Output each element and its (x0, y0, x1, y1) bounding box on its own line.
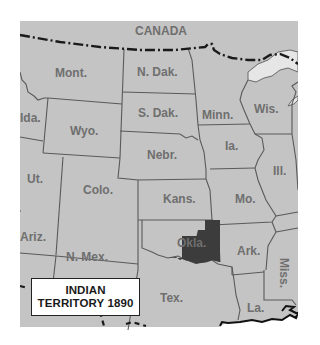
state-label-ndak: N. Dak. (137, 65, 178, 79)
state-label-mont: Mont. (55, 66, 87, 80)
state-label-wis: Wis. (254, 102, 279, 116)
state-label-ia: Ia. (225, 139, 238, 153)
state-label-tex: Tex. (160, 291, 183, 305)
state-label-ariz: Ariz. (20, 230, 46, 244)
state-label-ark: Ark. (237, 244, 260, 258)
state-label-ida: Ida. (20, 111, 41, 125)
state-label-mo: Mo. (235, 192, 256, 206)
state-label-okla: Okla. (177, 236, 206, 250)
country-label-canada: CANADA (135, 24, 187, 38)
legend-line-1: INDIAN (65, 284, 105, 297)
state-label-minn: Minn. (202, 108, 233, 122)
state-label-ut: Ut. (27, 172, 43, 186)
legend-line-2: TERRITORY 1890 (38, 297, 134, 310)
state-label-wyo: Wyo. (70, 124, 98, 138)
state-label-la: La. (247, 301, 264, 315)
state-label-ill: Ill. (273, 164, 286, 178)
state-label-colo: Colo. (83, 183, 113, 197)
state-label-sdak: S. Dak. (138, 106, 178, 120)
state-label-miss: Miss. (277, 258, 291, 288)
state-label-nebr: Nebr. (147, 148, 177, 162)
map-legend: INDIAN TERRITORY 1890 (31, 278, 140, 316)
state-label-kans: Kans. (163, 192, 196, 206)
state-label-nmex: N. Mex. (66, 250, 108, 264)
